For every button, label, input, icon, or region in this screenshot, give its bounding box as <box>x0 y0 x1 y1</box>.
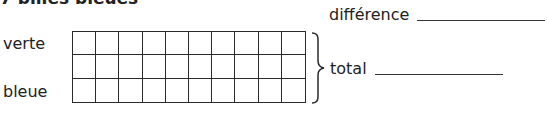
grid-cell[interactable] <box>119 79 142 102</box>
grid-cell[interactable] <box>282 55 305 78</box>
grid-cell[interactable] <box>119 32 142 55</box>
grid-cell[interactable] <box>282 79 305 102</box>
grid-cell[interactable] <box>189 79 212 102</box>
total-answer: total <box>330 61 503 77</box>
grid-cell[interactable] <box>73 79 96 102</box>
grid-cell[interactable] <box>282 32 305 55</box>
grid-cell[interactable] <box>143 32 166 55</box>
difference-answer: différence <box>329 7 545 23</box>
grid-cell[interactable] <box>189 55 212 78</box>
grid-cell[interactable] <box>235 32 258 55</box>
total-answer-line[interactable] <box>375 73 503 75</box>
grid-cell[interactable] <box>259 32 282 55</box>
grid-cell[interactable] <box>212 55 235 78</box>
difference-answer-line[interactable] <box>417 19 545 21</box>
grid-cell[interactable] <box>166 79 189 102</box>
grid-cell[interactable] <box>235 55 258 78</box>
grid-cell[interactable] <box>235 79 258 102</box>
grid-cell[interactable] <box>119 55 142 78</box>
row-label-bleue: bleue <box>3 84 47 100</box>
grid-cell[interactable] <box>143 79 166 102</box>
grid-cell[interactable] <box>96 32 119 55</box>
grid-cell[interactable] <box>96 79 119 102</box>
grid-cell[interactable] <box>73 32 96 55</box>
exercise-heading: 7 billes bleues <box>0 0 138 8</box>
total-label: total <box>330 61 367 77</box>
grid-cell[interactable] <box>212 32 235 55</box>
curly-brace-icon <box>310 31 326 105</box>
grid-cell[interactable] <box>73 55 96 78</box>
grid-cell[interactable] <box>259 79 282 102</box>
grid-cell[interactable] <box>96 55 119 78</box>
counting-grid <box>72 31 306 103</box>
difference-label: différence <box>329 7 409 23</box>
grid-cell[interactable] <box>166 32 189 55</box>
grid-cell[interactable] <box>259 55 282 78</box>
grid-cell[interactable] <box>143 55 166 78</box>
grid-cell[interactable] <box>212 79 235 102</box>
grid-cell[interactable] <box>166 55 189 78</box>
row-label-verte: verte <box>3 36 45 52</box>
grid-cell[interactable] <box>189 32 212 55</box>
